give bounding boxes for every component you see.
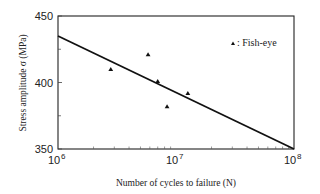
x-tick-base: 10 (166, 154, 178, 166)
data-point-triangle (165, 104, 170, 108)
x-tick-base: 10 (284, 154, 296, 166)
x-tick-exponent: 7 (179, 152, 184, 161)
x-tick-label: 106 (48, 152, 66, 166)
legend-triangle-icon (231, 42, 235, 46)
x-tick-exponent: 6 (61, 152, 66, 161)
legend-label: : Fish-eye (237, 37, 277, 48)
data-point-triangle (146, 52, 151, 56)
plot-frame (58, 16, 294, 149)
data-point-triangle (185, 91, 190, 95)
x-tick-base: 10 (48, 154, 60, 166)
x-tick-label: 108 (284, 152, 302, 166)
fit-line-group (58, 36, 294, 149)
y-tick-label: 450 (35, 10, 53, 22)
legend: : Fish-eye (231, 37, 277, 48)
fit-line (58, 36, 294, 149)
x-tick-exponent: 8 (297, 152, 302, 161)
y-axis-title: Stress amplitude σ (MPa) (18, 34, 29, 131)
x-tick-label: 107 (166, 152, 184, 166)
y-tick-label: 400 (35, 77, 53, 89)
x-axis-title: Number of cycles to failure (N) (116, 178, 236, 189)
axes (58, 16, 294, 149)
data-point-triangle (155, 79, 160, 83)
data-point-triangle (108, 67, 113, 71)
sn-chart: 450400350106107108 Number of cycles to f… (0, 0, 320, 194)
